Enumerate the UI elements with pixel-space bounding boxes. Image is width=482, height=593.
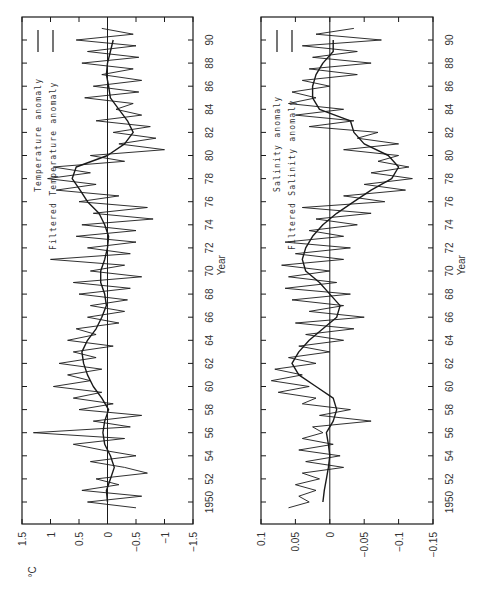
value-tick-label: 0.5 [74,532,85,546]
year-tick-label: 70 [444,265,455,277]
year-tick-label: 54 [444,450,455,462]
value-tick-label: −1.5 [188,532,199,552]
year-tick-label: 66 [204,311,215,323]
year-tick-label: 66 [444,311,455,323]
year-tick-label: 52 [444,473,455,485]
year-tick-label: 80 [444,150,455,162]
legend-label: Temperature anomaly [34,78,43,192]
year-tick-label: 68 [444,288,455,300]
value-tick-label: 1.5 [17,532,28,546]
x-axis-label: Year [456,254,467,275]
year-tick-label: 76 [204,196,215,208]
value-tick-label: −0.15 [428,532,439,558]
value-tick-label: −1 [160,532,171,544]
year-tick-label: 64 [444,334,455,346]
year-tick-label: 54 [204,450,215,462]
year-tick-label: 88 [444,57,455,69]
year-tick-label: 90 [444,34,455,46]
year-tick-label: 62 [444,357,455,369]
year-tick-label: 88 [204,57,215,69]
temperature-panel: 1.510.50−0.5−1−1.51950525456586062646668… [17,17,227,578]
year-tick-label: 80 [204,150,215,162]
year-tick-label: 82 [204,126,215,138]
x-axis-label: Year [216,254,227,275]
year-tick-label: 86 [204,80,215,92]
year-tick-label: 58 [204,404,215,416]
value-tick-label: 0.05 [290,532,301,552]
y-axis-unit-label: °C [27,566,38,577]
filtered-series-line [292,40,399,502]
year-tick-label: 78 [444,173,455,185]
value-tick-label: 0.1 [256,532,267,546]
year-tick-label: 82 [444,126,455,138]
year-tick-label: 76 [444,196,455,208]
year-tick-label: 56 [444,427,455,439]
year-tick-label: 84 [444,103,455,115]
legend-label: Salinity anomaly [273,96,282,192]
year-tick-label: 86 [444,80,455,92]
value-tick-label: 0 [103,532,114,538]
plot-frame [261,17,433,524]
year-tick-label: 62 [204,357,215,369]
year-tick-label: 1950 [444,490,455,513]
year-tick-label: 1950 [204,490,215,513]
legend-label: Filtered Salinity anomaly [288,100,297,250]
year-tick-label: 68 [204,288,215,300]
year-tick-label: 56 [204,427,215,439]
year-tick-label: 64 [204,334,215,346]
year-tick-label: 74 [444,219,455,231]
value-tick-label: −0.5 [131,532,142,552]
year-tick-label: 58 [444,404,455,416]
legend-label: Filtered Temperature anomaly [49,82,58,250]
filtered-series-line [72,40,133,502]
value-tick-label: 0 [325,532,336,538]
year-tick-label: 60 [444,381,455,393]
value-tick-label: −0.05 [359,532,370,558]
year-tick-label: 90 [204,34,215,46]
value-tick-label: 1 [46,532,57,538]
value-tick-label: −0.1 [394,532,405,552]
salinity-panel: 0.10.050−0.05−0.1−0.15195052545658606264… [256,17,467,557]
year-tick-label: 70 [204,265,215,277]
year-tick-label: 78 [204,173,215,185]
year-tick-label: 72 [444,242,455,254]
year-tick-label: 72 [204,242,215,254]
year-tick-label: 52 [204,473,215,485]
year-tick-label: 84 [204,103,215,115]
year-tick-label: 60 [204,381,215,393]
figure-canvas: 1.510.50−0.5−1−1.51950525456586062646668… [0,0,482,593]
figure: 1.510.50−0.5−1−1.51950525456586062646668… [0,0,482,593]
year-tick-label: 74 [204,219,215,231]
